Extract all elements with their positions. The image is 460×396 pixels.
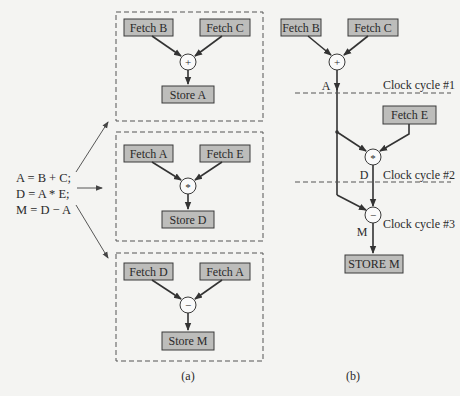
dataflow-diagram: A = B + C; D = A * E; M = D − A Fetch B …	[0, 0, 460, 396]
edge	[344, 36, 368, 55]
label-a: A	[322, 79, 331, 93]
store-d-label: Store D	[170, 213, 207, 227]
fetch-d-label: Fetch D	[129, 265, 168, 279]
edge	[337, 132, 366, 151]
multiply-symbol: *	[370, 152, 376, 164]
edge	[152, 162, 181, 180]
fetch-b-label: Fetch B	[282, 21, 320, 35]
edge	[195, 36, 222, 56]
group-store-a: Fetch B Fetch C + Store A	[116, 12, 263, 121]
panel-b: Fetch B Fetch C + A Clock cycle #1 Fetch…	[281, 19, 455, 383]
fetch-c-label: Fetch C	[206, 21, 244, 35]
edge	[152, 280, 181, 299]
equation-a: A = B + C;	[16, 171, 71, 185]
equations: A = B + C; D = A * E; M = D − A	[16, 171, 71, 217]
edge	[337, 195, 366, 210]
fetch-e-label: Fetch E	[207, 147, 244, 161]
store-m-label: STORE M	[348, 257, 400, 271]
panel-a: A = B + C; D = A * E; M = D − A Fetch B …	[16, 12, 263, 383]
edge	[195, 162, 222, 180]
panel-b-caption: (b)	[346, 369, 360, 383]
fetch-e-label: Fetch E	[391, 108, 428, 122]
arrow-to-group-3	[76, 205, 108, 258]
add-symbol: +	[185, 56, 191, 68]
multiply-symbol: *	[185, 181, 191, 193]
arrow-to-group-1	[76, 122, 108, 172]
group-store-m: Fetch D Fetch A − Store M	[116, 253, 263, 361]
equation-m: M = D − A	[16, 203, 71, 217]
clock-cycle-3-label: Clock cycle #3	[383, 217, 455, 231]
label-m: M	[357, 225, 368, 239]
edge	[195, 280, 222, 299]
fetch-c-label: Fetch C	[354, 21, 392, 35]
fetch-b-label: Fetch B	[130, 21, 168, 35]
fetch-a-label: Fetch A	[130, 147, 168, 161]
equation-d: D = A * E;	[16, 187, 70, 201]
group-store-d: Fetch A Fetch E * Store D	[116, 132, 263, 241]
store-m-label: Store M	[169, 334, 208, 348]
subtract-symbol: −	[185, 299, 191, 311]
subtract-symbol: −	[370, 209, 376, 221]
panel-a-caption: (a)	[181, 369, 194, 383]
add-symbol: +	[334, 56, 340, 68]
store-a-label: Store A	[170, 88, 207, 102]
label-d: D	[360, 168, 369, 182]
fetch-a-label: Fetch A	[206, 265, 244, 279]
clock-cycle-1-label: Clock cycle #1	[383, 78, 455, 92]
edge	[308, 36, 331, 55]
clock-cycle-2-label: Clock cycle #2	[383, 168, 455, 182]
edge	[380, 124, 409, 151]
edge	[152, 36, 181, 56]
